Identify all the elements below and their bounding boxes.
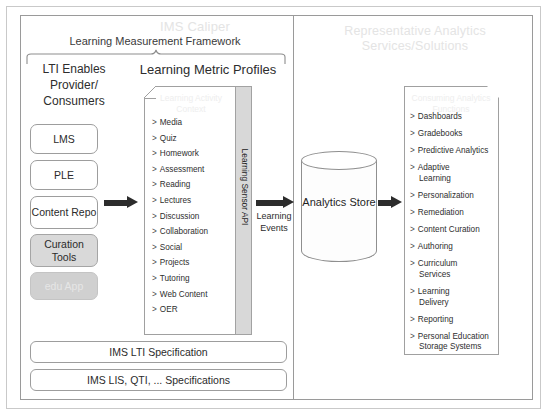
bullet-icon: > bbox=[410, 242, 415, 251]
arrow-shaft bbox=[378, 200, 392, 206]
list-item[interactable]: >Tutoring bbox=[152, 274, 232, 283]
list-item-label: Homework bbox=[160, 149, 199, 158]
metric-profiles-list: >Media >Quiz >Homework >Assessment >Read… bbox=[152, 118, 232, 321]
list-item-label: Content Curation bbox=[418, 225, 480, 234]
arrow-providers-to-profiles bbox=[104, 196, 138, 209]
spec-bar-ims-lis-qti[interactable]: IMS LIS, QTI, ... Specifications bbox=[30, 369, 287, 391]
cylinder-top-ellipse bbox=[301, 151, 377, 170]
bullet-icon: > bbox=[152, 134, 157, 143]
bullet-icon: > bbox=[410, 163, 415, 172]
list-item-sublabel: Services bbox=[410, 270, 496, 281]
provider-label: edu App bbox=[45, 280, 84, 293]
list-item-label: Discussion bbox=[160, 212, 200, 221]
list-item-label: Reading bbox=[160, 180, 191, 189]
bullet-icon: > bbox=[152, 180, 157, 189]
provider-label: LMS bbox=[53, 133, 75, 146]
bullet-icon: > bbox=[152, 212, 157, 221]
caliper-watermark-title: IMS Caliper bbox=[105, 19, 285, 34]
bullet-icon: > bbox=[152, 305, 157, 314]
list-item[interactable]: >AdaptiveLearning bbox=[410, 163, 496, 185]
list-item-label: OER bbox=[160, 305, 178, 314]
list-item-sublabel: Storage Systems bbox=[410, 342, 496, 353]
list-item[interactable]: >Content Curation bbox=[410, 225, 496, 236]
bullet-icon: > bbox=[410, 287, 415, 296]
list-item[interactable]: >Web Content bbox=[152, 290, 232, 299]
list-item-sublabel: Delivery bbox=[410, 298, 496, 309]
learning-events-label: Learning Events bbox=[252, 211, 296, 234]
list-item[interactable]: >Reading bbox=[152, 180, 232, 189]
framework-label: Learning Measurement Framework bbox=[30, 35, 280, 47]
list-item[interactable]: >Personal EducationStorage Systems bbox=[410, 332, 496, 354]
list-item-label: Tutoring bbox=[160, 274, 190, 283]
list-item[interactable]: >Projects bbox=[152, 258, 232, 267]
bullet-icon: > bbox=[410, 208, 415, 217]
list-item[interactable]: >Social bbox=[152, 243, 232, 252]
arrow-shaft bbox=[256, 200, 284, 206]
list-item-label: Remediation bbox=[418, 208, 464, 217]
list-item[interactable]: >Discussion bbox=[152, 212, 232, 221]
list-item[interactable]: >Quiz bbox=[152, 134, 232, 143]
list-item-label: Gradebooks bbox=[418, 129, 463, 138]
bullet-icon: > bbox=[410, 225, 415, 234]
list-item[interactable]: >Reporting bbox=[410, 315, 496, 326]
bullet-icon: > bbox=[152, 290, 157, 299]
list-item-label: Projects bbox=[160, 258, 190, 267]
list-item-label: Learning bbox=[418, 287, 450, 296]
list-item-label: Social bbox=[160, 243, 182, 252]
bullet-icon: > bbox=[152, 243, 157, 252]
provider-label: PLE bbox=[54, 169, 74, 182]
list-item-label: Assessment bbox=[160, 165, 205, 174]
bullet-icon: > bbox=[152, 149, 157, 158]
list-item[interactable]: >Assessment bbox=[152, 165, 232, 174]
list-item[interactable]: >Personalization bbox=[410, 191, 496, 202]
provider-box-ple[interactable]: PLE bbox=[30, 160, 98, 190]
arrow-learning-events bbox=[256, 196, 294, 209]
list-item[interactable]: >Homework bbox=[152, 149, 232, 158]
arrow-head bbox=[127, 196, 138, 208]
bullet-icon: > bbox=[410, 332, 415, 341]
list-item[interactable]: >Lectures bbox=[152, 196, 232, 205]
list-item-label: Dashboards bbox=[418, 112, 462, 121]
list-item-label: Lectures bbox=[160, 196, 191, 205]
provider-box-content-repo[interactable]: Content Repo bbox=[30, 196, 98, 229]
list-item[interactable]: >LearningDelivery bbox=[410, 287, 496, 309]
bullet-icon: > bbox=[152, 196, 157, 205]
list-item[interactable]: >Dashboards bbox=[410, 112, 496, 123]
provider-label: Content Repo bbox=[32, 206, 97, 219]
bullet-icon: > bbox=[410, 146, 415, 155]
list-item-label: Quiz bbox=[160, 134, 177, 143]
bullet-icon: > bbox=[410, 191, 415, 200]
list-item-label: Personal Education bbox=[418, 332, 489, 341]
list-item[interactable]: >Collaboration bbox=[152, 227, 232, 236]
list-item[interactable]: >Authoring bbox=[410, 242, 496, 253]
bullet-icon: > bbox=[152, 274, 157, 283]
list-item-label: Reporting bbox=[418, 315, 454, 324]
bullet-icon: > bbox=[410, 129, 415, 138]
list-item[interactable]: >Gradebooks bbox=[410, 129, 496, 140]
learning-sensor-api-bar: Learning Sensor API bbox=[235, 86, 252, 335]
list-item[interactable]: >Media bbox=[152, 118, 232, 127]
list-item-label: Web Content bbox=[160, 290, 208, 299]
analytics-panel-title: Representative Analytics Services/Soluti… bbox=[300, 24, 530, 54]
list-item-label: Curriculum bbox=[418, 259, 458, 268]
analytics-store-cylinder: Analytics Store bbox=[301, 151, 377, 271]
arrow-head bbox=[391, 196, 402, 208]
list-item-label: Adaptive bbox=[418, 163, 450, 172]
bullet-icon: > bbox=[152, 165, 157, 174]
learning-sensor-api-label: Learning Sensor API bbox=[240, 102, 250, 272]
list-item[interactable]: >Predictive Analytics bbox=[410, 146, 496, 157]
arrow-shaft bbox=[104, 200, 128, 206]
bullet-icon: > bbox=[152, 227, 157, 236]
spec-bar-label: IMS LTI Specification bbox=[109, 346, 207, 358]
list-item-label: Authoring bbox=[418, 242, 453, 251]
provider-box-edu-app[interactable]: edu App bbox=[30, 272, 98, 300]
list-item[interactable]: >OER bbox=[152, 305, 232, 314]
list-item[interactable]: >Remediation bbox=[410, 208, 496, 219]
list-item[interactable]: >CurriculumServices bbox=[410, 259, 496, 281]
provider-box-lms[interactable]: LMS bbox=[30, 124, 98, 154]
provider-box-curation-tools[interactable]: Curation Tools bbox=[30, 234, 98, 267]
spec-bar-ims-lti[interactable]: IMS LTI Specification bbox=[30, 341, 287, 363]
bullet-icon: > bbox=[152, 258, 157, 267]
analytics-services-list: >Dashboards >Gradebooks >Predictive Anal… bbox=[410, 112, 496, 360]
arrow-store-to-services bbox=[378, 196, 402, 209]
